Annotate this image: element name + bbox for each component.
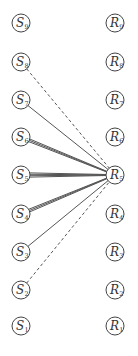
node-s9: S9	[12, 14, 30, 32]
node-r3: R3	[106, 243, 124, 261]
node-s7: S7	[12, 91, 30, 109]
edge-s8-r5	[27, 69, 109, 168]
node-s8: S8	[12, 53, 30, 71]
edge-s6-r5	[29, 139, 107, 172]
bipartite-diagram: S9S8S7S6S5S4S3S2S1R9R8R7R6R5R4R3R2R1	[0, 0, 138, 356]
node-s4: S4	[12, 205, 30, 223]
node-r7: R7	[106, 91, 124, 109]
node-r6: R6	[106, 128, 124, 146]
node-r9: R9	[106, 14, 124, 32]
edge-s7-r5	[28, 106, 108, 170]
node-r4: R4	[106, 205, 124, 223]
node-r1: R1	[106, 317, 124, 335]
edge-s5-r5	[30, 173, 106, 177]
node-s3: S3	[12, 243, 30, 261]
node-r5: R5	[106, 166, 124, 184]
node-r8: R8	[106, 53, 124, 71]
edge-s2-r5	[27, 182, 110, 283]
node-s6: S6	[12, 128, 30, 146]
edge-s4-r5	[29, 178, 107, 212]
node-r2: R2	[106, 281, 124, 299]
node-s1: S1	[12, 317, 30, 335]
node-s2: S2	[12, 281, 30, 299]
edges-layer	[27, 69, 110, 283]
edge-s3-r5	[28, 181, 108, 247]
node-s5: S5	[12, 166, 30, 184]
